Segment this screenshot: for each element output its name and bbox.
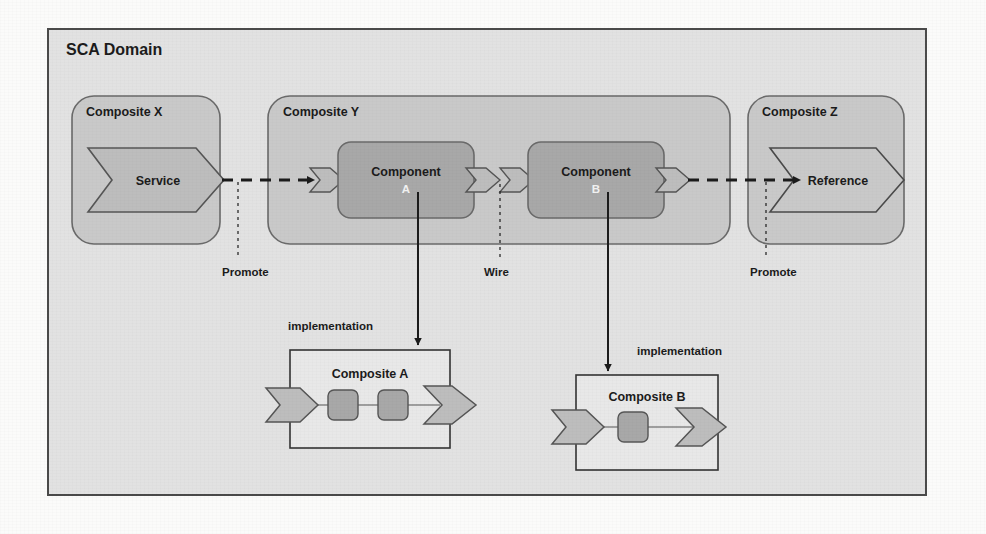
promote-right-annotation: Promote <box>750 266 797 278</box>
composite-b-impl-group[interactable]: Composite B <box>552 375 726 470</box>
composite-a-impl-group[interactable]: Composite A <box>266 350 476 448</box>
component-a-label: Component <box>371 165 441 179</box>
sca-domain-title: SCA Domain <box>66 41 162 58</box>
component-a-box[interactable] <box>338 142 474 218</box>
reference-label: Reference <box>808 174 868 188</box>
composite-z-label: Composite Z <box>762 105 838 119</box>
sca-domain-diagram: SCA Domain Composite X Service Composite… <box>0 0 986 534</box>
component-b-sublabel: B <box>592 183 600 195</box>
component-b-label: Component <box>561 165 631 179</box>
composite-y-label: Composite Y <box>283 105 360 119</box>
composite-a-inner-component-1[interactable] <box>328 390 358 420</box>
service-label: Service <box>136 174 181 188</box>
composite-z-group[interactable]: Composite Z Reference <box>748 96 904 244</box>
composite-a-box[interactable] <box>290 350 450 448</box>
composite-x-label: Composite X <box>86 105 163 119</box>
composite-b-inner-component-1[interactable] <box>618 412 648 442</box>
composite-a-inner-component-2[interactable] <box>378 390 408 420</box>
implementation-a-annotation: implementation <box>288 320 373 332</box>
composite-a-label: Composite A <box>332 367 409 381</box>
component-a-sublabel: A <box>402 183 410 195</box>
wire-annotation: Wire <box>484 266 509 278</box>
composite-b-label: Composite B <box>608 390 685 404</box>
promote-left-annotation: Promote <box>222 266 269 278</box>
diagram-canvas: SCA Domain Composite X Service Composite… <box>0 0 986 534</box>
implementation-b-annotation: implementation <box>637 345 722 357</box>
composite-x-group[interactable]: Composite X Service <box>72 96 224 244</box>
composite-y-group[interactable]: Composite Y Component A Component B <box>268 96 730 244</box>
component-b-box[interactable] <box>528 142 664 218</box>
